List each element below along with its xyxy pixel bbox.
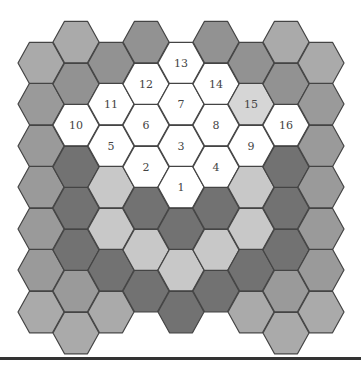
hex-number-label: 1 — [178, 181, 185, 194]
hex-number-label: 5 — [108, 140, 115, 153]
hex-number-label: 13 — [174, 57, 188, 70]
hex-number-label: 16 — [279, 119, 293, 132]
hex-number-label: 7 — [178, 98, 185, 111]
hex-number-label: 2 — [143, 161, 150, 174]
hex-number-label: 14 — [209, 78, 223, 91]
bottom-rule — [0, 357, 361, 360]
hex-number-label: 12 — [139, 78, 153, 91]
hex-number-label: 11 — [104, 98, 118, 111]
hex-number-label: 8 — [213, 119, 220, 132]
hex-number-label: 10 — [69, 119, 83, 132]
hex-number-label: 6 — [143, 119, 150, 132]
hex-number-label: 3 — [178, 140, 185, 153]
hex-number-label: 15 — [244, 98, 258, 111]
hex-number-label: 4 — [213, 161, 220, 174]
hexagon-grid: 10115126213731148415916 — [0, 0, 361, 368]
hex-number-label: 9 — [248, 140, 255, 153]
hex-grid-figure: 10115126213731148415916 — [0, 0, 361, 368]
